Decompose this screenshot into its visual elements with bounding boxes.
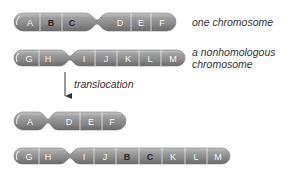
chromosome-nonhomologous: G H I J K L M: [14, 50, 185, 66]
band-J: J: [104, 54, 109, 64]
band-L: L: [147, 54, 152, 64]
band-C-translocated: C: [147, 152, 154, 162]
caption-one-chromosome: one chromosome: [192, 16, 273, 28]
caption-nonhomologous-line2: chromosome: [192, 58, 253, 70]
band-C: C: [69, 18, 76, 28]
band-F: F: [109, 117, 115, 127]
band-B-translocated: B: [124, 152, 131, 162]
band-H: H: [45, 54, 52, 64]
band-G: G: [25, 152, 32, 162]
band-G: G: [25, 54, 32, 64]
chromosome-result-1: A D E F: [14, 112, 126, 130]
chromosome-one: A B C D E F: [14, 13, 176, 31]
band-K: K: [170, 152, 176, 162]
band-H: H: [45, 152, 52, 162]
caption-nonhomologous-line1: a nonhomologous: [192, 46, 276, 58]
chromosome-result-2: G H I J B C K L M: [14, 148, 230, 164]
band-K: K: [125, 54, 131, 64]
band-E: E: [138, 18, 144, 28]
band-A: A: [27, 117, 33, 127]
band-D: D: [66, 117, 73, 127]
band-F: F: [159, 18, 165, 28]
band-E: E: [88, 117, 94, 127]
band-A: A: [27, 18, 33, 28]
band-D: D: [117, 18, 124, 28]
band-B: B: [48, 18, 55, 28]
band-J: J: [103, 152, 108, 162]
band-M: M: [169, 54, 177, 64]
arrow-label: translocation: [74, 78, 134, 90]
translocation-diagram: A B C D E F one chromosome G H I J K L M…: [0, 0, 294, 175]
band-I: I: [83, 54, 86, 64]
band-I: I: [83, 152, 86, 162]
band-M: M: [214, 152, 222, 162]
band-L: L: [193, 152, 198, 162]
